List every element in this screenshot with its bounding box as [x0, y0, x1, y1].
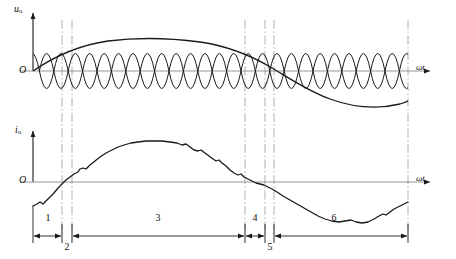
- segment-label-2: 2: [60, 241, 74, 252]
- segment-label-6: 6: [327, 212, 341, 223]
- segment-label-3: 3: [151, 212, 165, 223]
- upper-traces: [25, 38, 428, 107]
- segment-label-4: 4: [248, 212, 262, 223]
- upper-y-axis-label: uo: [14, 3, 23, 15]
- boundary-guides: [62, 20, 408, 236]
- segment-label-1: 1: [41, 212, 55, 223]
- segment-dimension-bar: [33, 206, 408, 243]
- lower-x-axis-label: ωt: [416, 173, 425, 183]
- lower-y-axis-label: io: [15, 124, 21, 136]
- upper-origin-label: O: [19, 64, 26, 75]
- modulation-envelope: [33, 38, 424, 107]
- lower-plot: [20, 131, 430, 223]
- waveform-figure: [0, 0, 456, 259]
- upper-plot: [20, 13, 430, 107]
- figure-root: uo O ωt io O ωt 1 2 3 4 5 6: [0, 0, 456, 259]
- segment-label-5: 5: [263, 241, 277, 252]
- lower-origin-label: O: [19, 174, 26, 185]
- upper-x-axis-label: ωt: [416, 62, 425, 72]
